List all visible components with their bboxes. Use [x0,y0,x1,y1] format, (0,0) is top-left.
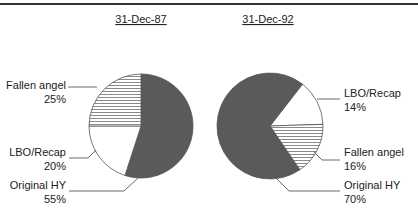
value-lbo-recap-1987: 20% [44,160,66,172]
chart-title-1992: 31-Dec-92 [242,13,293,25]
value-fallen-angel-1987: 25% [44,93,66,105]
leader-fallen-angel-1992 [314,152,340,160]
leader-lbo-recap-1987 [69,150,96,158]
pie-slice-fallen-angel [89,74,141,126]
pie-charts-figure: 31-Dec-87 31-Dec-92 Fallen angel 25% LBO… [0,0,418,219]
label-original-hy-1987: Original HY [10,179,67,191]
label-original-hy-1992: Original HY [344,179,401,191]
pie-1987 [89,74,193,178]
leader-original-hy-1992 [276,178,340,191]
label-lbo-recap-1992: LBO/Recap [344,87,401,99]
label-fallen-angel-1992: Fallen angel [344,146,404,158]
value-original-hy-1992: 70% [344,193,366,205]
label-fallen-angel-1987: Fallen angel [6,79,66,91]
pie-1992 [217,73,323,179]
value-lbo-recap-1992: 14% [344,101,366,113]
label-lbo-recap-1987: LBO/Recap [9,146,66,158]
value-fallen-angel-1992: 16% [344,160,366,172]
chart-title-1987: 31-Dec-87 [115,13,166,25]
leader-original-hy-1987 [69,178,138,191]
value-original-hy-1987: 55% [44,193,66,205]
